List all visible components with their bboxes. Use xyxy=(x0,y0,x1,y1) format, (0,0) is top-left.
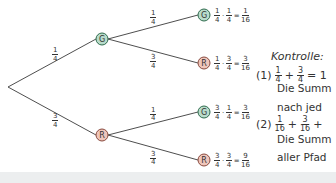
item-2-label: (2) xyxy=(256,118,272,131)
item-1-text-line-2: nach jed xyxy=(277,101,322,113)
factor: 34 xyxy=(214,153,220,169)
kontrolle-item-2: (2) 1 16 + 3 16 + xyxy=(256,116,322,133)
item-1-text-line-1: Die Summ xyxy=(277,82,332,94)
path-probability: 14·34=316 xyxy=(214,56,250,72)
factor: 34 xyxy=(214,105,220,121)
svg-text:R: R xyxy=(201,59,207,68)
factor: 14 xyxy=(214,56,220,72)
fraction-1-16: 1 16 xyxy=(275,116,285,133)
path-probability: 14·14=116 xyxy=(214,8,250,24)
svg-text:G: G xyxy=(99,35,105,44)
plus-sign: + xyxy=(313,118,322,131)
node-red-r: R xyxy=(198,154,210,166)
svg-text:G: G xyxy=(201,108,207,117)
node-green-g: G xyxy=(198,106,210,118)
path-probability: 34·14=316 xyxy=(214,105,250,121)
equals-one: = 1 xyxy=(307,69,327,82)
node-red-r: R xyxy=(198,57,210,69)
result: 916 xyxy=(241,153,250,169)
result: 316 xyxy=(241,56,250,72)
factor: 14 xyxy=(214,8,220,24)
tree-nodes: GRGRGR xyxy=(96,9,210,166)
node-green-g: G xyxy=(96,33,108,45)
edge-probability: 14 xyxy=(52,47,58,63)
edge-probability: 14 xyxy=(150,10,156,26)
edge-probability: 34 xyxy=(150,151,156,167)
svg-text:R: R xyxy=(99,131,105,140)
item-1-label: (1) xyxy=(256,69,272,82)
edge-probability: 14 xyxy=(150,107,156,123)
item-2-text-line-1: Die Summ xyxy=(277,133,332,145)
result: 116 xyxy=(241,8,250,24)
node-green-g: G xyxy=(198,9,210,21)
factor: 14 xyxy=(226,105,232,121)
edge-probability: 34 xyxy=(52,113,58,129)
result: 316 xyxy=(241,105,250,121)
kontrolle-heading: Kontrolle: xyxy=(271,50,324,63)
node-red-r: R xyxy=(96,129,108,141)
plus-sign: + xyxy=(285,69,294,82)
fraction-3-16: 3 16 xyxy=(300,116,310,133)
item-2-text-line-2: aller Pfad xyxy=(277,151,327,163)
factor: 14 xyxy=(226,8,232,24)
edge-probability: 34 xyxy=(150,54,156,70)
plus-sign: + xyxy=(288,118,297,131)
svg-text:R: R xyxy=(201,156,207,165)
bottom-band xyxy=(0,172,336,183)
factor: 34 xyxy=(226,153,232,169)
path-probability: 34·34=916 xyxy=(214,153,250,169)
svg-text:G: G xyxy=(201,11,207,20)
factor: 34 xyxy=(226,56,232,72)
